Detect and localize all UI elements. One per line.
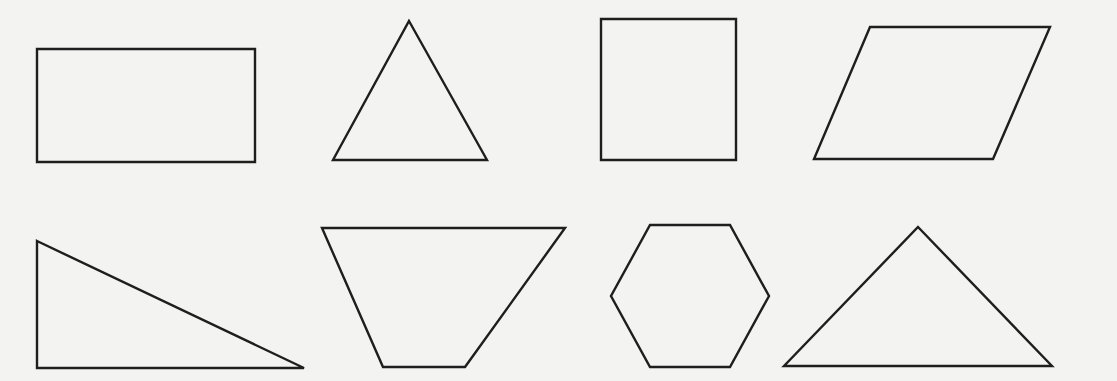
square-shape (601, 19, 736, 160)
shapes-figure (0, 0, 1117, 381)
trapezoid-shape (322, 228, 565, 367)
obtuse-triangle-shape (784, 227, 1052, 366)
parallelogram-shape (814, 27, 1050, 159)
rectangle-shape (37, 49, 255, 162)
equilateral-triangle-shape (333, 21, 487, 160)
right-triangle-shape (37, 241, 304, 368)
hexagon-shape (611, 225, 769, 367)
